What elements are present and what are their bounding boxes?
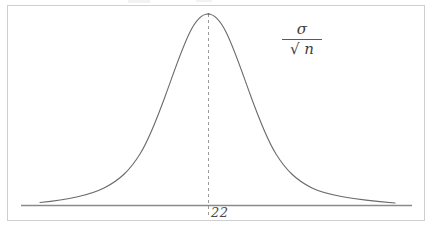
figure-canvas: σ √ n 22 xyxy=(0,0,434,229)
center-tick-label: 22 xyxy=(211,205,229,220)
formula-denominator: √ n xyxy=(276,42,328,57)
peak-point xyxy=(208,13,210,15)
formula-numerator: σ xyxy=(276,22,328,38)
standard-error-formula: σ √ n xyxy=(276,22,328,57)
bell-curve-path xyxy=(40,14,395,203)
normal-curve-plot xyxy=(0,0,434,229)
